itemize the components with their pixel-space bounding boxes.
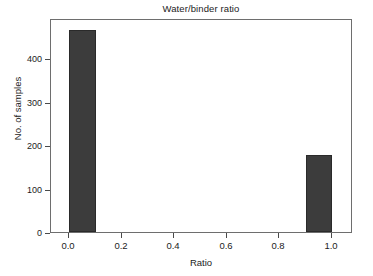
y-tick-label: 200 (27, 142, 42, 151)
y-tick-mark (45, 146, 50, 147)
x-axis-label: Ratio (50, 257, 352, 268)
y-tick-label: 100 (27, 186, 42, 195)
x-tick-label: 0.2 (101, 241, 141, 251)
y-tick-mark (45, 103, 50, 104)
x-tick-mark (68, 233, 69, 238)
histogram-figure: Water/binder ratio No. of samples Ratio … (0, 0, 373, 276)
y-tick-mark (45, 233, 50, 234)
bar-low-ratio (69, 30, 95, 232)
y-tick-label: 400 (27, 55, 42, 64)
x-tick-mark (173, 233, 174, 238)
x-tick-label: 0.4 (153, 241, 193, 251)
plot-area (51, 20, 351, 232)
y-tick-label: 0 (37, 229, 42, 238)
chart-title: Water/binder ratio (50, 3, 352, 14)
x-tick-label: 0.8 (258, 241, 298, 251)
x-tick-mark (278, 233, 279, 238)
bar-high-ratio (306, 155, 332, 232)
y-axis-label: No. of samples (12, 59, 23, 159)
x-tick-label: 0.6 (206, 241, 246, 251)
x-tick-mark (121, 233, 122, 238)
plot-frame (50, 19, 352, 233)
y-tick-mark (45, 59, 50, 60)
x-tick-mark (331, 233, 332, 238)
y-tick-label: 300 (27, 99, 42, 108)
x-tick-mark (226, 233, 227, 238)
y-tick-mark (45, 190, 50, 191)
x-tick-label: 0.0 (48, 241, 88, 251)
x-tick-label: 1.0 (311, 241, 351, 251)
